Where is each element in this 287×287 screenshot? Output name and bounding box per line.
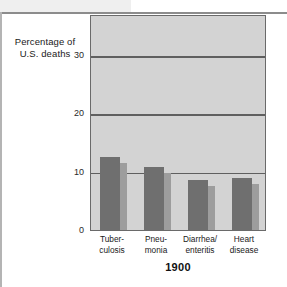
- y-tick-label-20: 20: [58, 108, 84, 118]
- x-tick-label-4: Heartdisease: [217, 234, 271, 255]
- plot-area: [90, 15, 266, 231]
- gridline-30: [91, 56, 265, 58]
- bar-1: [100, 157, 120, 230]
- bar-group: [144, 167, 171, 230]
- y-axis-title-line1: Percentage of: [6, 36, 84, 48]
- x-tick-label-line: disease: [217, 245, 271, 256]
- bar-group: [188, 180, 215, 230]
- plot-inner: [91, 16, 265, 230]
- bar-4: [232, 178, 252, 230]
- y-tick-label-10: 10: [58, 167, 84, 177]
- bar-3: [188, 180, 208, 230]
- period-label: 1900: [90, 261, 266, 273]
- x-tick-label-line: Heart: [217, 234, 271, 245]
- y-tick-label-30: 30: [58, 50, 84, 60]
- y-tick-label-0: 0: [58, 225, 84, 235]
- bar-2: [144, 167, 164, 230]
- gridline-20: [91, 114, 265, 116]
- page-root: Percentage of U.S. deaths 0102030 Tuber-…: [0, 0, 287, 287]
- bar-group: [100, 157, 127, 230]
- bar-group: [232, 178, 259, 230]
- bar-chart: Percentage of U.S. deaths 0102030 Tuber-…: [0, 0, 287, 287]
